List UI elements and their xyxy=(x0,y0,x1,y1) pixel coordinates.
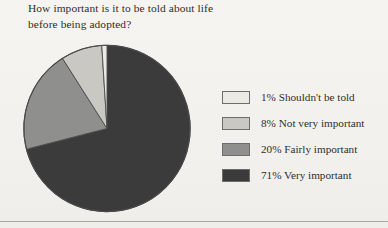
chart-title-line-2: before being adopted? xyxy=(28,17,268,33)
pie-chart xyxy=(23,44,191,213)
legend-item-very-important[interactable]: 71% Very important xyxy=(222,162,382,188)
legend-label-shouldnt-be-told: 1% Shouldn't be told xyxy=(261,91,355,104)
legend-item-fairly-important[interactable]: 20% Fairly important xyxy=(222,136,382,162)
legend-label-fairly-important: 20% Fairly important xyxy=(261,143,357,156)
legend-item-shouldnt-be-told[interactable]: 1% Shouldn't be told xyxy=(222,84,382,110)
bottom-divider xyxy=(0,221,388,222)
chart-title: How important is it to be told about lif… xyxy=(28,1,268,32)
chart-title-line-1: How important is it to be told about lif… xyxy=(28,1,268,17)
legend-swatch-not-very-important xyxy=(222,117,250,130)
legend-label-not-very-important: 8% Not very important xyxy=(261,117,364,130)
legend-item-not-very-important[interactable]: 8% Not very important xyxy=(222,110,382,136)
pie-slice-group xyxy=(24,45,190,211)
chart-legend: 1% Shouldn't be told 8% Not very importa… xyxy=(222,84,382,188)
legend-swatch-very-important xyxy=(222,169,250,182)
pie-chart-svg xyxy=(23,44,191,213)
legend-label-very-important: 71% Very important xyxy=(261,169,352,182)
legend-swatch-shouldnt-be-told xyxy=(222,91,250,104)
legend-swatch-fairly-important xyxy=(222,143,250,156)
